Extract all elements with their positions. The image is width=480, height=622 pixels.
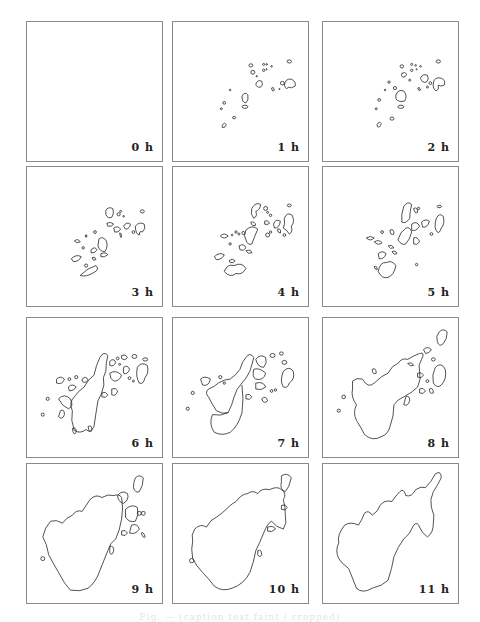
panel-3h: 3 h — [26, 166, 163, 307]
panel-2h: 2 h — [322, 21, 459, 162]
panel-8h: 8 h — [322, 317, 459, 458]
panel-5h: 5 h — [322, 166, 459, 307]
panel-10h: 10 h — [172, 463, 309, 604]
time-label: 4 h — [278, 286, 300, 299]
time-label: 0 h — [132, 141, 154, 154]
time-label: 8 h — [428, 437, 450, 450]
time-label: 6 h — [132, 437, 154, 450]
panel-7h: 7 h — [172, 317, 309, 458]
time-label: 9 h — [132, 583, 154, 596]
time-label: 1 h — [278, 141, 300, 154]
panel-1h: 1 h — [172, 21, 309, 162]
panel-6h: 6 h — [26, 317, 163, 458]
time-label: 7 h — [278, 437, 300, 450]
panel-11h: 11 h — [322, 463, 459, 604]
panel-9h: 9 h — [26, 463, 163, 604]
time-label: 2 h — [428, 141, 450, 154]
time-label: 3 h — [132, 286, 154, 299]
time-label: 5 h — [428, 286, 450, 299]
time-label: 11 h — [419, 583, 450, 596]
panel-0h: 0 h — [26, 21, 163, 162]
figure-caption: Fig. — (caption text faint / cropped) — [0, 612, 480, 622]
panel-4h: 4 h — [172, 166, 309, 307]
time-label: 10 h — [269, 583, 300, 596]
